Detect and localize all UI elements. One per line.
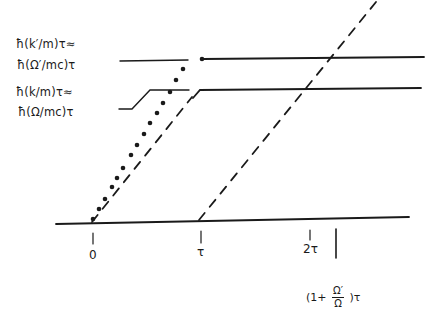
time-axis-line	[56, 217, 409, 224]
x-label-two-tau: 2τ	[303, 243, 318, 255]
lower-level-label-line1: ħ(k/m)τ≈	[16, 87, 73, 99]
dashed-trajectory-from-tau	[199, 2, 376, 220]
lower-level-label-line2: ħ(Ω/mc)τ	[18, 107, 74, 119]
lower-level-right-segment	[193, 88, 421, 98]
dotted-trajectory-from-zero	[91, 57, 205, 222]
x-label-tau: τ	[197, 246, 204, 258]
dashed-trajectory-from-zero	[92, 97, 192, 222]
upper-level-right-segment	[203, 57, 424, 59]
ratio-denominator: Ω	[334, 298, 342, 309]
upper-level-label-line2: ħ(Ω′/mc)τ	[17, 60, 76, 72]
ratio-numerator: Ω′	[332, 286, 344, 298]
ratio-prefix: (1+	[306, 291, 327, 304]
ratio-fraction: Ω′ Ω	[332, 286, 344, 309]
upper-level-left-segment	[120, 60, 188, 61]
ratio-suffix: )τ	[349, 291, 360, 304]
x-label-ratio-tau: (1+ Ω′ Ω )τ	[306, 286, 360, 309]
upper-level-label-line1: ħ(k′/m)τ≈	[16, 39, 76, 51]
momentum-time-diagram: ħ(k′/m)τ≈ ħ(Ω′/mc)τ ħ(k/m)τ≈ ħ(Ω/mc)τ 0 …	[0, 0, 435, 328]
x-label-zero: 0	[89, 249, 97, 261]
lower-level-left-step	[119, 90, 189, 109]
